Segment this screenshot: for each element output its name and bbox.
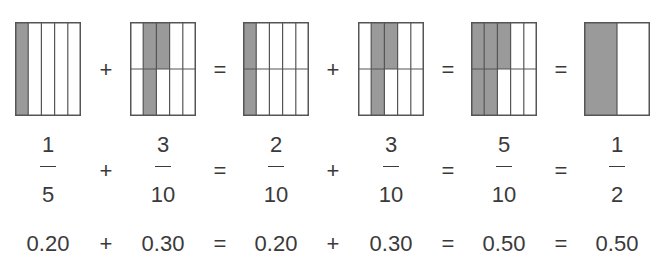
fraction-bar <box>155 166 171 167</box>
equals-sign: = <box>205 160 235 182</box>
equals-sign: = <box>433 59 463 81</box>
plus-sign: + <box>91 233 121 255</box>
equals-sign: = <box>546 160 576 182</box>
equals-sign: = <box>546 59 576 81</box>
grid-box-three-tenths-b <box>358 22 424 116</box>
plus-sign: + <box>318 233 348 255</box>
plus-sign: + <box>318 160 348 182</box>
decimal-6: 0.50 <box>582 233 652 255</box>
fraction-addition-diagram: + = + = = 1 5 + 3 10 = 2 10 + 3 10 = 5 1… <box>0 0 660 261</box>
grid-box-five-tenths <box>471 22 537 116</box>
plus-sign: + <box>318 59 348 81</box>
equals-sign: = <box>205 233 235 255</box>
grid-box-one-fifth <box>15 22 81 116</box>
decimal-2: 0.30 <box>128 233 198 255</box>
numerator: 1 <box>18 134 78 156</box>
denominator: 10 <box>474 184 534 206</box>
equals-sign: = <box>433 160 463 182</box>
denominator: 2 <box>587 184 647 206</box>
numerator: 2 <box>246 134 306 156</box>
decimal-4: 0.30 <box>356 233 426 255</box>
equals-sign: = <box>433 233 463 255</box>
numerator: 1 <box>587 134 647 156</box>
denominator: 5 <box>18 184 78 206</box>
grid-box-one-half <box>584 22 650 116</box>
grid-box-two-tenths <box>243 22 309 116</box>
numerator: 5 <box>474 134 534 156</box>
denominator: 10 <box>246 184 306 206</box>
denominator: 10 <box>133 184 193 206</box>
plus-sign: + <box>91 59 121 81</box>
equals-sign: = <box>205 59 235 81</box>
fraction-bar <box>383 166 399 167</box>
fraction-bar <box>268 166 284 167</box>
equals-sign: = <box>546 233 576 255</box>
decimal-5: 0.50 <box>469 233 539 255</box>
numerator: 3 <box>133 134 193 156</box>
grid-box-three-tenths <box>130 22 196 116</box>
plus-sign: + <box>91 160 121 182</box>
fraction-bar <box>40 166 56 167</box>
fraction-bar <box>609 166 625 167</box>
denominator: 10 <box>361 184 421 206</box>
fraction-bar <box>496 166 512 167</box>
decimal-1: 0.20 <box>13 233 83 255</box>
numerator: 3 <box>361 134 421 156</box>
decimal-3: 0.20 <box>241 233 311 255</box>
